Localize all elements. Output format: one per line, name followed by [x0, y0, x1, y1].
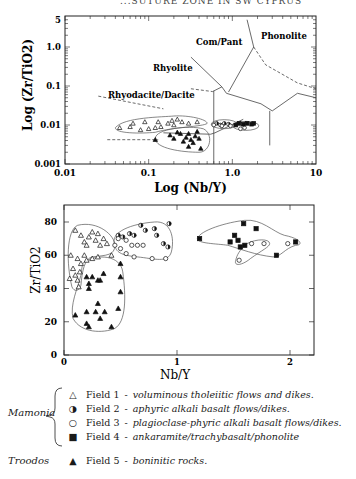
svg-text:2: 2: [287, 357, 293, 367]
legend-item-field-1: △ Field 1 - voluminous tholeiitic flows …: [66, 388, 314, 401]
series-field-1: [67, 228, 114, 289]
linear-scatter-chart: 012020406080Nb/YZr/TiO2: [0, 0, 356, 390]
legend-description: ankaramite/trachybasalt/phonolite: [133, 431, 300, 442]
open-circle-icon: ○: [66, 417, 80, 428]
svg-text:Zr/TiO2: Zr/TiO2: [29, 246, 43, 293]
svg-text:60: 60: [44, 250, 57, 260]
legend-item-field-5: ▲ Field 5 - boninitic rocks.: [66, 454, 207, 467]
legend-field-label: Field 1: [86, 389, 119, 400]
open-triangle-icon: △: [66, 389, 80, 400]
filled-triangle-icon: ▲: [66, 455, 80, 466]
legend-field-label: Field 3: [86, 417, 119, 428]
legend-group-troodos: Troodos: [8, 455, 49, 466]
legend-dash: -: [124, 455, 127, 466]
legend-item-field-2: ◑ Field 2 - aphyric alkali basalt flows/…: [66, 402, 290, 415]
legend-item-field-3: ○ Field 3 - plagioclase-phyric alkali ba…: [66, 416, 342, 429]
legend-field-label: Field 4: [86, 431, 119, 442]
svg-text:20: 20: [44, 317, 57, 327]
legend-field-label: Field 2: [86, 403, 119, 414]
half-filled-circle-icon: ◑: [66, 403, 80, 414]
svg-text:0: 0: [51, 350, 57, 360]
svg-text:0: 0: [61, 357, 67, 367]
legend-dash: -: [124, 417, 127, 428]
legend-field-label: Field 5: [86, 455, 119, 466]
svg-text:40: 40: [44, 284, 57, 294]
legend-item-field-4: ■ Field 4 - ankaramite/trachybasalt/phon…: [66, 430, 299, 443]
legend-description: voluminous tholeiitic flows and dikes.: [133, 389, 314, 400]
svg-text:1: 1: [174, 357, 180, 367]
legend-dash: -: [124, 389, 127, 400]
legend-description: plagioclase-phyric alkali basalt flows/d…: [133, 417, 342, 428]
series-field-4: [197, 222, 297, 258]
legend-description: aphyric alkali basalt flows/dikes.: [133, 403, 290, 414]
filled-square-icon: ■: [66, 431, 80, 442]
legend-dash: -: [124, 403, 127, 414]
svg-text:Nb/Y: Nb/Y: [160, 368, 191, 382]
svg-text:80: 80: [44, 217, 57, 227]
legend-dash: -: [124, 431, 127, 442]
legend-description: boninitic rocks.: [133, 455, 208, 466]
